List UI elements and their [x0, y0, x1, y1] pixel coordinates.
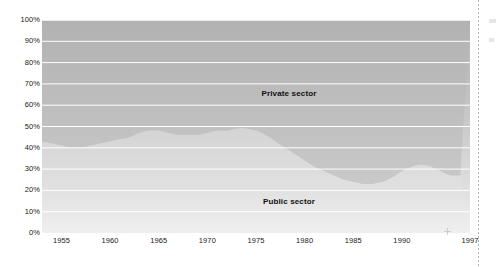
x-axis-tick-label: 1985 — [345, 236, 362, 245]
x-axis-tick-label: 1955 — [53, 236, 70, 245]
y-axis-tick-label: 100% — [2, 16, 40, 24]
x-axis: 195519601965197019751980198519901997 — [0, 236, 499, 250]
x-axis-tick-label: 1980 — [296, 236, 313, 245]
margin-mark — [489, 19, 496, 23]
chart-figure: 100%90%80%70%60%50%40%30%20%10%0% — [0, 0, 499, 267]
x-axis-tick-label: 1965 — [150, 236, 167, 245]
y-axis: 100%90%80%70%60%50%40%30%20%10%0% — [0, 0, 40, 267]
y-axis-tick-label: 60% — [2, 101, 40, 109]
y-axis-tick-label: 40% — [2, 144, 40, 152]
y-axis-tick-label: 20% — [2, 186, 40, 194]
x-axis-tick-label: 1990 — [393, 236, 410, 245]
page-edge-dotted-rule — [478, 0, 479, 267]
y-axis-tick-label: 30% — [2, 165, 40, 173]
plot-area: Private sector Public sector — [42, 20, 470, 233]
stacked-area-chart — [42, 20, 470, 233]
x-axis-tick-label: 1970 — [199, 236, 216, 245]
x-axis-tick-label: 1997 — [461, 236, 478, 245]
y-axis-tick-label: 80% — [2, 59, 40, 67]
y-axis-tick-label: 50% — [2, 123, 40, 131]
margin-mark — [489, 38, 494, 42]
series-label-public-sector: Public sector — [263, 197, 315, 206]
x-axis-tick-label: 1975 — [247, 236, 264, 245]
x-axis-tick-label: 1960 — [102, 236, 119, 245]
y-axis-tick-label: 90% — [2, 37, 40, 45]
y-axis-tick-label: 10% — [2, 208, 40, 216]
series-label-private-sector: Private sector — [261, 89, 316, 98]
y-axis-tick-label: 70% — [2, 80, 40, 88]
crop-mark-icon — [444, 228, 451, 235]
